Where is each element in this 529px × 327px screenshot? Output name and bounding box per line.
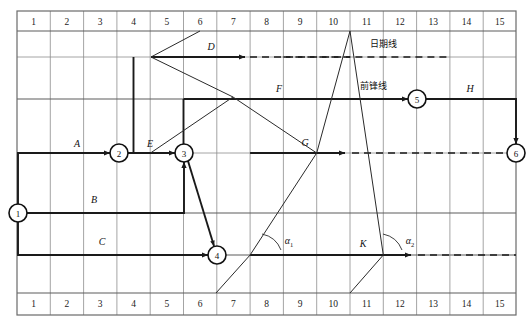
top-tick-11: 11 — [362, 17, 371, 27]
alpha-1-arc — [262, 234, 281, 250]
bottom-tick-10: 10 — [329, 299, 339, 309]
node-5[interactable]: 5 — [408, 90, 426, 108]
front-line-lower-left-segment — [216, 153, 317, 293]
top-tick-4: 4 — [131, 17, 136, 27]
chinese-annotations: 日期线 前锋线 — [360, 38, 397, 91]
activity-arrow-c — [18, 213, 208, 255]
top-tick-10: 10 — [329, 17, 339, 27]
bottom-tick-15: 15 — [495, 299, 505, 309]
dummy-arrow-3-4 — [188, 161, 214, 246]
front-line-label: 前锋线 — [360, 80, 387, 91]
node-3[interactable]: 3 — [175, 144, 193, 162]
node-4-label: 4 — [215, 251, 220, 261]
bottom-axis-scale: 1 2 3 4 5 6 7 8 9 10 11 12 13 14 15 — [31, 299, 505, 309]
node-3-label: 3 — [182, 149, 187, 159]
activity-arrows — [18, 57, 516, 255]
top-tick-6: 6 — [198, 17, 203, 27]
activity-label-d: D — [206, 41, 215, 52]
top-tick-13: 13 — [428, 17, 438, 27]
top-tick-3: 3 — [98, 17, 103, 27]
node-2-label: 2 — [117, 149, 122, 159]
top-tick-14: 14 — [462, 17, 472, 27]
node-1[interactable]: 1 — [9, 204, 27, 222]
bottom-tick-1: 1 — [31, 299, 36, 309]
alpha-2-arc — [383, 234, 402, 250]
bottom-tick-11: 11 — [362, 299, 371, 309]
top-tick-15: 15 — [495, 17, 505, 27]
top-tick-7: 7 — [231, 17, 236, 27]
bottom-tick-14: 14 — [462, 299, 472, 309]
activity-label-a: A — [73, 138, 81, 149]
bottom-tick-13: 13 — [428, 299, 438, 309]
bottom-tick-12: 12 — [395, 299, 405, 309]
top-tick-9: 9 — [298, 17, 303, 27]
node-1-label: 1 — [16, 209, 21, 219]
bottom-tick-7: 7 — [231, 299, 236, 309]
top-axis-scale: 1 2 3 4 5 6 7 8 9 10 11 12 13 14 15 — [31, 17, 505, 27]
node-2[interactable]: 2 — [110, 144, 128, 162]
bottom-tick-9: 9 — [298, 299, 303, 309]
bottom-tick-5: 5 — [164, 299, 169, 309]
node-5-label: 5 — [415, 95, 420, 105]
top-tick-2: 2 — [65, 17, 70, 27]
date-line-label: 日期线 — [370, 38, 397, 49]
alpha-1-label: α1 — [285, 235, 294, 248]
front-line-mid-segment — [233, 31, 350, 153]
top-tick-12: 12 — [395, 17, 405, 27]
node-6[interactable]: 6 — [507, 144, 525, 162]
alpha-2-label: α2 — [406, 235, 415, 248]
angle-labels: α1 α2 — [285, 235, 415, 248]
bottom-tick-3: 3 — [98, 299, 103, 309]
bottom-tick-2: 2 — [65, 299, 70, 309]
activity-label-h: H — [465, 83, 474, 94]
activity-label-e: E — [146, 138, 153, 149]
node-6-label: 6 — [514, 149, 519, 159]
network-nodes: 1 2 3 4 5 6 — [9, 90, 525, 264]
bottom-tick-8: 8 — [264, 299, 269, 309]
top-tick-5: 5 — [164, 17, 169, 27]
activity-label-b: B — [91, 194, 97, 205]
activity-label-f: F — [275, 83, 283, 94]
grid-horizontal-lines — [17, 31, 516, 293]
node-4[interactable]: 4 — [208, 246, 226, 264]
front-line-upper-segment — [151, 31, 234, 153]
front-line-lower-right-segment — [350, 31, 383, 293]
bottom-tick-6: 6 — [198, 299, 203, 309]
activity-arrow-h — [426, 99, 516, 144]
network-diagram-figure: 1 2 3 4 5 6 7 8 9 10 11 12 13 14 15 1 2 … — [0, 0, 529, 327]
activity-label-k: K — [359, 238, 368, 249]
activity-label-c: C — [99, 236, 106, 247]
diagram-canvas: 1 2 3 4 5 6 7 8 9 10 11 12 13 14 15 1 2 … — [0, 0, 529, 327]
activity-label-g: G — [301, 137, 308, 148]
top-tick-8: 8 — [264, 17, 269, 27]
bottom-tick-4: 4 — [131, 299, 136, 309]
top-tick-1: 1 — [31, 17, 36, 27]
